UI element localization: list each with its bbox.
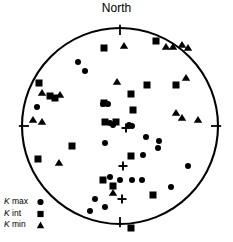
circle-marker xyxy=(82,68,88,74)
circle-marker xyxy=(156,138,162,144)
square-marker xyxy=(100,177,107,184)
circle-marker xyxy=(168,184,174,190)
circle-marker xyxy=(143,134,149,140)
square-marker xyxy=(35,156,42,163)
legend-label-kint: K int xyxy=(4,208,36,220)
circle-marker xyxy=(185,163,191,169)
square-marker xyxy=(113,119,120,126)
square-marker xyxy=(110,183,117,190)
square-marker xyxy=(102,119,109,126)
triangle-marker-icon xyxy=(36,220,46,229)
circle-marker xyxy=(34,104,40,110)
square-marker xyxy=(69,143,76,150)
circle-marker xyxy=(139,177,145,183)
circle-marker-icon xyxy=(36,197,46,206)
square-marker xyxy=(153,38,160,45)
circle-marker xyxy=(102,204,108,210)
circle-marker xyxy=(87,208,93,214)
legend-label-kmax: K max xyxy=(4,196,36,208)
circle-marker xyxy=(117,177,123,183)
circle-marker xyxy=(102,140,108,146)
square-marker xyxy=(101,100,108,107)
legend-suffix-kint: int xyxy=(10,208,21,218)
legend: K max K int K min xyxy=(4,196,46,231)
legend-suffix-kmax: max xyxy=(10,196,28,206)
square-marker xyxy=(128,91,135,98)
square-marker xyxy=(144,82,151,89)
circle-marker xyxy=(155,145,161,151)
circle-marker xyxy=(107,174,113,180)
square-marker xyxy=(128,153,135,160)
circle-marker xyxy=(140,152,146,158)
circle-marker xyxy=(129,177,135,183)
square-marker xyxy=(173,82,180,89)
legend-item-kmax: K max xyxy=(4,196,46,208)
square-marker xyxy=(150,192,157,199)
square-marker xyxy=(128,225,135,232)
circle-marker xyxy=(92,196,98,202)
square-marker-icon xyxy=(36,209,46,218)
legend-suffix-kmin: min xyxy=(10,219,26,229)
legend-label-kmin: K min xyxy=(4,219,36,231)
square-marker xyxy=(130,107,137,114)
square-marker xyxy=(101,45,108,52)
square-marker xyxy=(36,80,43,87)
legend-item-kint: K int xyxy=(4,208,46,220)
north-label: North xyxy=(0,1,233,15)
circle-marker xyxy=(75,59,81,65)
legend-item-kmin: K min xyxy=(4,219,46,231)
